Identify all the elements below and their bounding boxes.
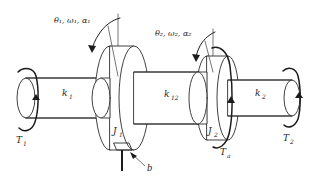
label-spring-k1-sub: 1 (69, 93, 73, 100)
disc-J1-hub-ellipse (92, 78, 110, 118)
rotation-theta1-arrowhead (88, 45, 96, 53)
diagram-canvas: θ₁, ω₁, α₁ θ₂, ω₂, α₂ k 1 k 12 k 2 J 1 J… (0, 0, 318, 182)
label-torque-T2-sub: 2 (289, 138, 294, 145)
label-torque-T2-text: T (283, 133, 290, 143)
rotation-theta2-arrowhead (192, 54, 200, 62)
label-torque-T1: T 1 (16, 135, 27, 147)
label-spring-k12-text: k (164, 89, 169, 99)
label-coordinates-right: θ₂, ω₂, α₂ (155, 29, 192, 38)
label-torque-Ta-sub: a (227, 152, 231, 159)
label-torque-Ta: T a (220, 147, 231, 159)
shaft-k2-body (228, 80, 292, 116)
shaft-k1-end-ellipse (17, 78, 35, 118)
label-spring-k1-text: k (62, 88, 67, 98)
label-inertia-J2-sub: 2 (213, 131, 218, 138)
label-damping-b: b (147, 163, 152, 173)
disc-J2-hub-ellipse (189, 72, 207, 124)
rotation-theta1-curve (92, 18, 120, 50)
label-spring-k12-sub: 12 (171, 94, 179, 101)
label-torque-T1-text: T (16, 135, 23, 145)
label-spring-k2-sub: 2 (261, 93, 266, 100)
label-torque-Ta-text: T (220, 147, 227, 157)
label-inertia-J1-sub: 1 (119, 131, 123, 138)
label-torque-T1-sub: 1 (23, 140, 27, 147)
label-torque-T2: T 2 (283, 133, 294, 145)
label-coordinates-left: θ₁, ω₁, α₁ (54, 16, 91, 25)
torsional-system-figure: θ₁, ω₁, α₁ θ₂, ω₂, α₂ k 1 k 12 k 2 J 1 J… (0, 0, 318, 182)
label-spring-k2-text: k (255, 88, 260, 98)
